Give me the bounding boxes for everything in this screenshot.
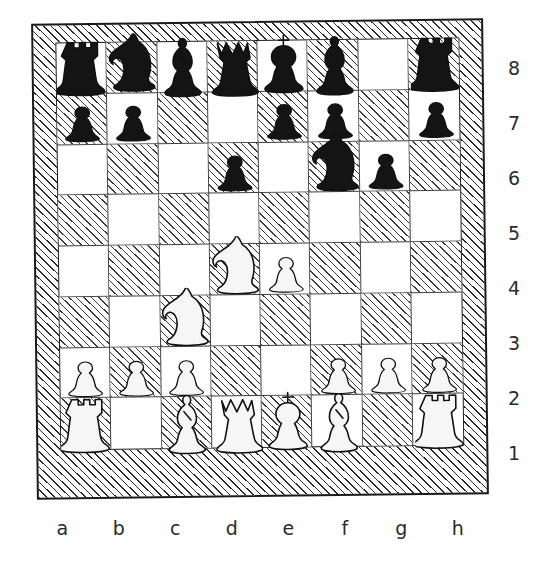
square-f2[interactable]: [311, 344, 362, 395]
file-label-b: b: [91, 505, 148, 551]
square-d8[interactable]: [207, 41, 258, 92]
square-e5[interactable]: [259, 193, 310, 244]
square-c8[interactable]: [157, 42, 208, 93]
file-label-f: f: [317, 505, 374, 551]
square-c6[interactable]: [158, 143, 209, 194]
square-e2[interactable]: [261, 345, 312, 396]
square-b5[interactable]: [108, 194, 159, 245]
chess-diagram: abcdefgh 87654321: [0, 0, 556, 562]
board-playing-area: [55, 38, 464, 451]
rank-label-2: 2: [492, 370, 536, 425]
square-h5[interactable]: [410, 191, 461, 242]
square-a3[interactable]: [59, 297, 110, 348]
square-c5[interactable]: [159, 194, 210, 245]
square-e3[interactable]: [260, 294, 311, 345]
rank-labels: 87654321: [492, 40, 536, 480]
square-c3[interactable]: [160, 295, 211, 346]
square-b7[interactable]: [107, 93, 158, 144]
square-b3[interactable]: [110, 296, 161, 347]
rank-label-5: 5: [492, 205, 536, 260]
file-labels: abcdefgh: [34, 505, 486, 551]
rank-label-4: 4: [492, 260, 536, 315]
square-a1[interactable]: [61, 398, 112, 449]
square-h4[interactable]: [411, 242, 462, 293]
square-d7[interactable]: [208, 92, 259, 143]
square-b1[interactable]: [111, 397, 162, 448]
square-g3[interactable]: [361, 293, 412, 344]
square-g4[interactable]: [360, 242, 411, 293]
square-g8[interactable]: [358, 39, 409, 90]
square-e6[interactable]: [259, 142, 310, 193]
square-d3[interactable]: [210, 295, 261, 346]
square-g6[interactable]: [359, 141, 410, 192]
square-d1[interactable]: [211, 396, 262, 447]
square-e8[interactable]: [257, 40, 308, 91]
square-d4[interactable]: [210, 244, 261, 295]
board-frame: [31, 18, 489, 499]
square-b2[interactable]: [110, 347, 161, 398]
square-a4[interactable]: [59, 246, 110, 297]
square-a5[interactable]: [58, 195, 109, 246]
square-h3[interactable]: [411, 292, 462, 343]
square-g1[interactable]: [362, 394, 413, 445]
file-label-e: e: [260, 505, 317, 551]
square-g7[interactable]: [358, 90, 409, 141]
square-b4[interactable]: [109, 245, 160, 296]
rank-label-8: 8: [492, 40, 536, 95]
square-f4[interactable]: [310, 243, 361, 294]
square-b8[interactable]: [107, 42, 158, 93]
square-c4[interactable]: [159, 245, 210, 296]
rank-label-1: 1: [492, 425, 536, 480]
square-h8[interactable]: [408, 39, 459, 90]
square-a7[interactable]: [57, 94, 108, 145]
square-a8[interactable]: [56, 43, 107, 94]
rank-label-7: 7: [492, 95, 536, 150]
file-label-c: c: [147, 505, 204, 551]
square-e7[interactable]: [258, 91, 309, 142]
square-h1[interactable]: [412, 394, 463, 445]
square-h7[interactable]: [409, 89, 460, 140]
square-f1[interactable]: [312, 395, 363, 446]
square-c7[interactable]: [157, 92, 208, 143]
square-b6[interactable]: [108, 144, 159, 195]
square-f6[interactable]: [309, 141, 360, 192]
square-f8[interactable]: [308, 40, 359, 91]
square-f5[interactable]: [309, 192, 360, 243]
file-label-h: h: [430, 505, 487, 551]
square-d5[interactable]: [209, 193, 260, 244]
square-e1[interactable]: [262, 396, 313, 447]
square-h6[interactable]: [409, 140, 460, 191]
square-a2[interactable]: [60, 347, 111, 398]
file-label-a: a: [34, 505, 91, 551]
rank-label-3: 3: [492, 315, 536, 370]
square-e4[interactable]: [260, 243, 311, 294]
file-label-d: d: [204, 505, 261, 551]
square-g5[interactable]: [360, 191, 411, 242]
square-c2[interactable]: [161, 346, 212, 397]
square-h2[interactable]: [412, 343, 463, 394]
square-d6[interactable]: [208, 143, 259, 194]
square-f3[interactable]: [311, 294, 362, 345]
square-c1[interactable]: [161, 397, 212, 448]
board-grid: [56, 39, 463, 450]
file-label-g: g: [373, 505, 430, 551]
rank-label-6: 6: [492, 150, 536, 205]
square-g2[interactable]: [362, 344, 413, 395]
square-a6[interactable]: [58, 144, 109, 195]
square-d2[interactable]: [211, 345, 262, 396]
square-f7[interactable]: [308, 91, 359, 142]
